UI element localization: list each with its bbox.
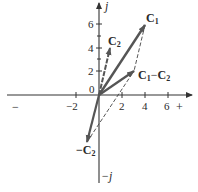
y-tick-label: 4 xyxy=(88,42,94,54)
label-c1-minus-c2: C1−C2 xyxy=(138,68,170,83)
negative-real-label: − xyxy=(12,100,19,114)
x-tick-label: 6 xyxy=(164,100,170,112)
phasor-plot: −2 2 4 6 0 2 4 6 − + j −j C1 C2 −C2 C1−C… xyxy=(0,0,198,192)
y-tick-label: 6 xyxy=(88,18,94,30)
y-tick-label: 2 xyxy=(88,65,94,77)
positive-real-label: + xyxy=(176,100,183,114)
positive-imag-label: j xyxy=(103,0,109,13)
dashed-guide-negc2 xyxy=(87,71,134,142)
y-tick-label: 0 xyxy=(89,83,95,95)
phasor-diagram: −2 2 4 6 0 2 4 6 − + j −j C1 C2 −C2 C1−C… xyxy=(0,0,198,192)
vector-neg-c2 xyxy=(87,95,99,142)
label-c2: C2 xyxy=(108,34,121,49)
vector-c1 xyxy=(99,25,145,95)
label-neg-c2: −C2 xyxy=(76,143,96,158)
negative-imag-label: −j xyxy=(101,169,113,183)
x-tick-label: 4 xyxy=(142,100,148,112)
label-c1: C1 xyxy=(146,11,159,26)
x-tick-label: −2 xyxy=(66,100,78,112)
x-tick-label: 2 xyxy=(119,100,125,112)
